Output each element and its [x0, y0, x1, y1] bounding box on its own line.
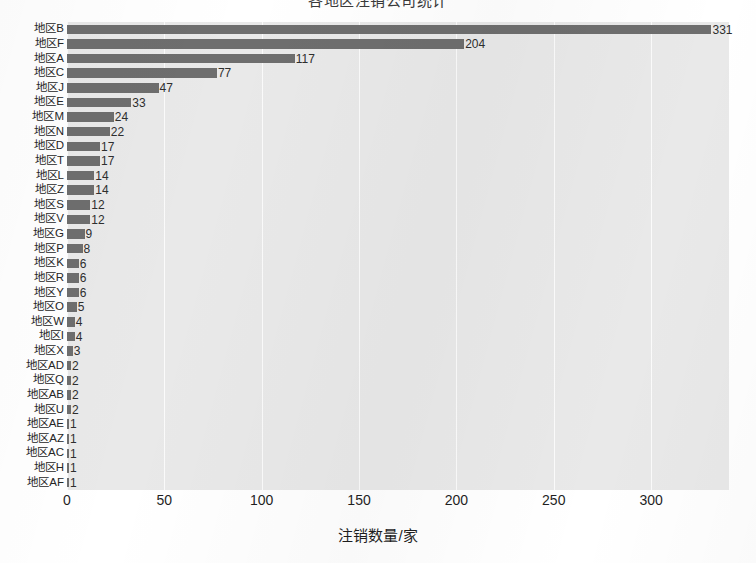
bar-row: 24 — [67, 112, 729, 122]
bar — [67, 317, 75, 327]
bar-value-label: 6 — [80, 271, 87, 285]
bar — [67, 185, 94, 195]
bar — [67, 419, 69, 429]
bar — [67, 273, 79, 283]
x-axis-tick-labels: 050100150200250300 — [67, 492, 729, 522]
bar — [67, 259, 79, 269]
bar — [67, 434, 69, 444]
bar — [67, 171, 94, 181]
y-axis-tick-6: 地区M — [32, 111, 64, 122]
bar-row: 6 — [67, 259, 729, 269]
bar — [67, 346, 73, 356]
bar-value-label: 33 — [132, 96, 145, 110]
bar-value-label: 9 — [86, 227, 93, 241]
bar-row: 8 — [67, 244, 729, 254]
y-axis-tick-3: 地区C — [34, 67, 64, 78]
bar-row: 117 — [67, 54, 729, 64]
y-axis-tick-13: 地区V — [34, 213, 64, 224]
x-axis-tick-3: 150 — [347, 492, 370, 508]
y-axis-tick-20: 地区W — [31, 316, 64, 327]
bar — [67, 463, 69, 473]
bar-row: 1 — [67, 478, 729, 488]
y-axis-tick-11: 地区Z — [35, 184, 64, 195]
bar — [67, 244, 83, 254]
bar — [67, 200, 90, 210]
bar-value-label: 77 — [218, 66, 231, 80]
bar — [67, 215, 90, 225]
bar-value-label: 117 — [296, 52, 315, 66]
bar-value-label: 14 — [95, 169, 108, 183]
bar-row: 6 — [67, 273, 729, 283]
y-axis-tick-19: 地区O — [33, 301, 64, 312]
y-axis-tick-31: 地区AF — [27, 477, 64, 488]
bar-value-label: 2 — [72, 403, 79, 417]
bar-value-label: 1 — [70, 432, 77, 446]
x-axis-tick-5: 250 — [542, 492, 565, 508]
bar — [67, 127, 110, 137]
y-axis-tick-0: 地区B — [34, 23, 64, 34]
bar-row: 2 — [67, 405, 729, 415]
y-axis-tick-22: 地区X — [34, 345, 64, 356]
bar — [67, 68, 217, 78]
y-axis-tick-23: 地区AD — [26, 360, 64, 371]
bar-value-label: 4 — [76, 330, 83, 344]
bar-value-label: 5 — [78, 300, 85, 314]
y-axis-tick-1: 地区F — [35, 38, 64, 49]
plot-area: 3312041177747332422171714141212986665443… — [67, 22, 729, 490]
bar — [67, 25, 711, 35]
bar-value-label: 204 — [465, 37, 485, 51]
bar-value-label: 12 — [91, 213, 104, 227]
y-axis-tick-14: 地区G — [33, 228, 64, 239]
bar-row: 2 — [67, 390, 729, 400]
y-axis-tick-25: 地区AB — [27, 389, 64, 400]
bar — [67, 156, 100, 166]
y-axis-tick-12: 地区S — [34, 199, 64, 210]
bar-row: 12 — [67, 215, 729, 225]
bar-value-label: 331 — [712, 23, 732, 37]
y-axis-tick-24: 地区Q — [33, 374, 64, 385]
bar — [67, 390, 71, 400]
bar-row: 77 — [67, 68, 729, 78]
bar — [67, 98, 131, 108]
chart-title: 各地区注销公司统计 — [0, 0, 756, 10]
y-axis-tick-8: 地区D — [34, 140, 64, 151]
x-axis-label: 注销数量/家 — [0, 524, 756, 545]
bar — [67, 112, 114, 122]
bar-row: 3 — [67, 346, 729, 356]
bar — [67, 83, 159, 93]
bar-row: 1 — [67, 419, 729, 429]
bar-row: 2 — [67, 376, 729, 386]
bar-row: 33 — [67, 98, 729, 108]
bar-row: 9 — [67, 229, 729, 239]
x-axis-tick-2: 100 — [250, 492, 273, 508]
bar — [67, 142, 100, 152]
bar-row: 4 — [67, 332, 729, 342]
bar-value-label: 22 — [111, 125, 124, 139]
bar-row: 1 — [67, 449, 729, 459]
bar — [67, 302, 77, 312]
bar-row: 2 — [67, 361, 729, 371]
y-axis-tick-4: 地区J — [36, 82, 64, 93]
y-axis-tick-18: 地区Y — [34, 287, 64, 298]
bar-row: 14 — [67, 171, 729, 181]
bar-row: 4 — [67, 317, 729, 327]
y-axis-tick-27: 地区AE — [27, 418, 64, 429]
bar — [67, 54, 295, 64]
bar-value-label: 24 — [115, 110, 128, 124]
bar — [67, 288, 79, 298]
y-axis-tick-15: 地区P — [34, 243, 64, 254]
bar-value-label: 6 — [80, 257, 87, 271]
bar-value-label: 1 — [70, 447, 77, 461]
bar-value-label: 4 — [76, 315, 83, 329]
bar-value-label: 12 — [91, 198, 104, 212]
y-axis-tick-9: 地区T — [35, 155, 64, 166]
y-axis-tick-labels: 地区B地区F地区A地区C地区J地区E地区M地区N地区D地区T地区L地区Z地区S地… — [0, 22, 64, 490]
bar-value-label: 1 — [70, 417, 77, 431]
bar — [67, 332, 75, 342]
x-axis-tick-0: 0 — [63, 492, 71, 508]
bar-value-label: 3 — [74, 344, 81, 358]
y-axis-tick-2: 地区A — [34, 53, 64, 64]
bar-value-label: 2 — [72, 374, 79, 388]
bar-row: 22 — [67, 127, 729, 137]
bar-row: 5 — [67, 302, 729, 312]
